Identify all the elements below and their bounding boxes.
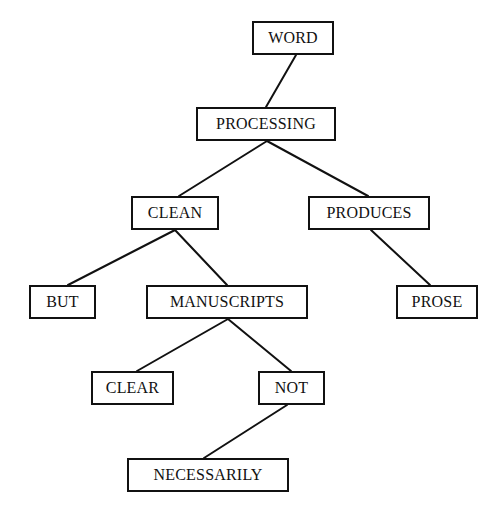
- edge-clean-but: [68, 230, 175, 285]
- edge-processing-clean: [179, 141, 267, 196]
- node-prose: PROSE: [396, 285, 478, 319]
- edge-not-necessarily: [204, 405, 287, 458]
- node-necessarily: NECESSARILY: [127, 458, 289, 492]
- node-clean: CLEAN: [131, 196, 219, 230]
- edge-manuscripts-clear: [137, 319, 228, 371]
- node-produces: PRODUCES: [308, 196, 430, 230]
- tree-diagram: WORD PROCESSING CLEAN PRODUCES BUT MANUS…: [0, 0, 500, 511]
- node-not: NOT: [258, 371, 325, 405]
- edge-clean-manuscripts: [175, 230, 227, 285]
- tree-edges: [0, 0, 500, 511]
- node-word: WORD: [252, 21, 334, 55]
- node-but: BUT: [29, 285, 96, 319]
- edge-processing-produces: [267, 141, 368, 196]
- edge-word-processing: [266, 55, 296, 107]
- node-manuscripts: MANUSCRIPTS: [146, 285, 308, 319]
- node-processing: PROCESSING: [196, 107, 336, 141]
- edge-manuscripts-not: [228, 319, 291, 371]
- edge-produces-prose: [371, 230, 430, 285]
- node-clear: CLEAR: [91, 371, 174, 405]
